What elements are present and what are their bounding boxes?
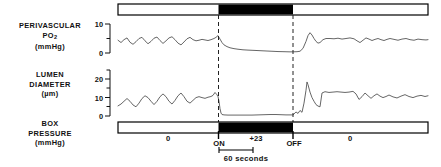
top-stimulus-bar bbox=[118, 4, 428, 15]
po2-label-line1: PERIVASCULAR bbox=[8, 21, 92, 31]
po2-axis bbox=[105, 24, 110, 53]
time-scale-label: 60 seconds bbox=[190, 154, 302, 163]
po2-label-line2: PO2 bbox=[8, 31, 92, 43]
lumen-axis-tick-20: 20 bbox=[82, 75, 103, 84]
marker-off-label: OFF bbox=[277, 139, 311, 148]
po2-axis-tick-10: 10 bbox=[86, 20, 103, 29]
lumen-label-line1: LUMEN bbox=[8, 70, 92, 80]
box-label-line3: (mmHg) bbox=[8, 138, 92, 148]
lumen-label-line3: (µm) bbox=[8, 89, 92, 99]
box-pressure-panel-label: BOX PRESSURE (mmHg) bbox=[8, 119, 92, 148]
box-pressure-value-after: 0 bbox=[330, 134, 370, 143]
po2-trace bbox=[118, 33, 428, 52]
lumen-axis bbox=[105, 70, 110, 116]
po2-panel-label: PERIVASCULAR PO2 (mmHg) bbox=[8, 21, 92, 52]
po2-label-line3: (mmHg) bbox=[8, 42, 92, 52]
po2-label-main: PO bbox=[43, 31, 54, 40]
lumen-panel-label: LUMEN DIAMETER (µm) bbox=[8, 70, 92, 99]
box-pressure-value-during: +23 bbox=[236, 134, 276, 143]
lumen-axis-tick-10: 10 bbox=[82, 94, 103, 103]
box-pressure-bar bbox=[118, 122, 428, 133]
po2-label-subscript: 2 bbox=[54, 34, 57, 40]
box-label-line1: BOX bbox=[8, 119, 92, 129]
marker-on-label: ON bbox=[203, 139, 235, 148]
box-pressure-value-before: 0 bbox=[148, 134, 188, 143]
po2-axis-tick-0: 0 bbox=[86, 49, 103, 58]
box-label-line2: PRESSURE bbox=[8, 129, 92, 139]
lumen-label-line2: DIAMETER bbox=[8, 80, 92, 90]
lumen-diameter-trace bbox=[118, 82, 428, 115]
figure-panel: PERIVASCULAR PO2 (mmHg) 10 0 LUMEN DIAME… bbox=[0, 0, 441, 167]
event-marker-lines bbox=[219, 15, 294, 130]
